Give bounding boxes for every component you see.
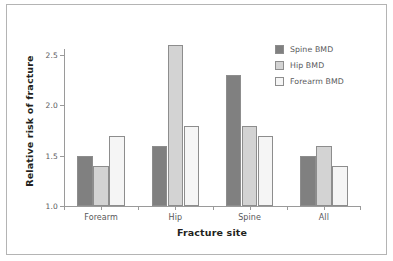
legend-label: Forearm BMD xyxy=(290,77,344,86)
x-tick-mark-boundary xyxy=(138,206,139,210)
legend-label: Spine BMD xyxy=(290,45,333,54)
x-tick-mark-boundary xyxy=(360,206,361,210)
figure-container: Relative risk of fracture Fracture site … xyxy=(0,0,393,261)
x-tick-mark xyxy=(250,206,251,210)
x-tick-mark-boundary xyxy=(213,206,214,210)
bar-forearm-spine-bmd xyxy=(77,156,93,206)
chart-frame: Relative risk of fracture Fracture site … xyxy=(6,4,387,255)
bar-spine-spine-bmd xyxy=(226,75,242,206)
x-tick-mark-boundary xyxy=(287,206,288,210)
bar-forearm-hip-bmd xyxy=(93,166,109,206)
bar-hip-forearm-bmd xyxy=(184,126,200,206)
x-axis-title: Fracture site xyxy=(177,227,247,238)
y-tick-label: 1.5 xyxy=(45,151,58,160)
legend-item-hip-bmd[interactable]: Hip BMD xyxy=(275,58,385,72)
legend-item-forearm-bmd[interactable]: Forearm BMD xyxy=(275,74,385,88)
y-tick-label: 1.0 xyxy=(45,202,58,211)
bar-all-spine-bmd xyxy=(300,156,316,206)
legend-swatch-icon xyxy=(275,45,284,54)
y-axis-title: Relative risk of fracture xyxy=(24,55,35,186)
legend-item-spine-bmd[interactable]: Spine BMD xyxy=(275,42,385,56)
x-category-label-forearm: Forearm xyxy=(84,213,118,222)
x-tick-mark xyxy=(175,206,176,210)
legend-swatch-icon xyxy=(275,77,284,86)
y-tick-label: 2.0 xyxy=(45,101,58,110)
legend-swatch-icon xyxy=(275,61,284,70)
x-category-label-all: All xyxy=(319,213,329,222)
x-tick-mark xyxy=(101,206,102,210)
bar-spine-hip-bmd xyxy=(242,126,258,206)
bar-hip-spine-bmd xyxy=(152,146,168,206)
x-tick-mark-boundary xyxy=(64,206,65,210)
bar-hip-hip-bmd xyxy=(168,45,184,206)
x-category-label-spine: Spine xyxy=(238,213,261,222)
x-category-label-hip: Hip xyxy=(169,213,183,222)
bar-all-forearm-bmd xyxy=(332,166,348,206)
bar-forearm-forearm-bmd xyxy=(109,136,125,206)
x-tick-mark xyxy=(324,206,325,210)
y-tick-label: 2.5 xyxy=(45,51,58,60)
bar-all-hip-bmd xyxy=(316,146,332,206)
chart-legend: Spine BMDHip BMDForearm BMD xyxy=(275,42,385,90)
bar-spine-forearm-bmd xyxy=(258,136,274,206)
legend-label: Hip BMD xyxy=(290,61,324,70)
